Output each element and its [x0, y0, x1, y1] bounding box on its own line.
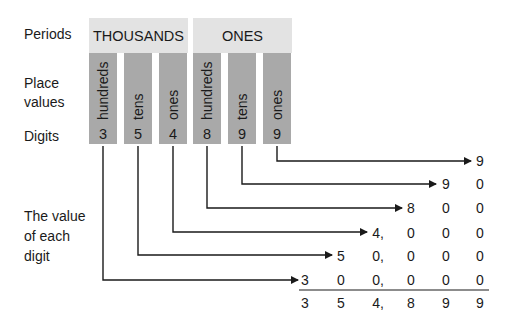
sum-cell: 3	[295, 295, 315, 311]
sum-cell: 5	[331, 295, 351, 311]
sum-cell: 4,	[368, 295, 388, 311]
cell: 4,	[368, 225, 388, 241]
cell: 0	[436, 248, 456, 264]
cell: 0	[470, 200, 490, 216]
cell: 9	[436, 176, 456, 192]
connector-arrows	[0, 0, 509, 328]
cell: 9	[470, 153, 490, 169]
cell: 0,	[368, 272, 388, 288]
sum-cell: 9	[436, 295, 456, 311]
cell: 0	[436, 225, 456, 241]
sum-cell: 8	[401, 295, 421, 311]
cell: 5	[331, 248, 351, 264]
cell: 0	[331, 272, 351, 288]
arrow-ones-hundreds	[207, 146, 402, 208]
cell: 0	[470, 225, 490, 241]
cell: 0	[401, 272, 421, 288]
cell: 0	[470, 176, 490, 192]
cell: 0,	[368, 248, 388, 264]
cell: 0	[470, 248, 490, 264]
arrow-thousands-ones	[173, 146, 367, 232]
sum-cell: 9	[470, 295, 490, 311]
cell: 0	[401, 225, 421, 241]
arrow-ones-ones	[277, 146, 471, 161]
cell: 0	[470, 272, 490, 288]
arrow-thousands-tens	[138, 146, 332, 255]
cell: 8	[401, 200, 421, 216]
cell: 0	[436, 272, 456, 288]
arrow-ones-tens	[242, 146, 436, 184]
arrow-thousands-hundreds	[103, 146, 298, 280]
cell: 3	[295, 272, 315, 288]
cell: 0	[401, 248, 421, 264]
cell: 0	[436, 200, 456, 216]
